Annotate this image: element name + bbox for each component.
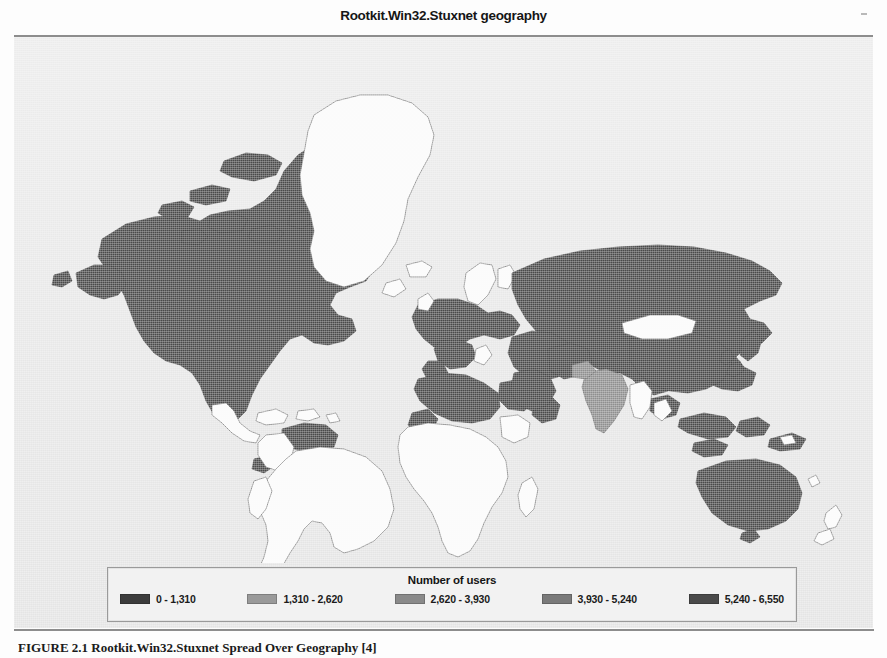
legend-title: Number of users bbox=[108, 574, 796, 586]
legend-swatch-icon bbox=[542, 594, 572, 604]
figure-caption-text: Rootkit.Win32.Stuxnet Spread Over Geogra… bbox=[91, 640, 376, 655]
map-legend: Number of users 0 - 1,310 1,310 - 2,620 … bbox=[107, 567, 797, 622]
world-choropleth-map: .hi { fill: #4a4a4a; stroke: #3a3a3a; st… bbox=[14, 43, 873, 563]
figure-bottom-rule bbox=[14, 629, 874, 631]
legend-item: 3,930 - 5,240 bbox=[542, 593, 637, 605]
figure-title: Rootkit.Win32.Stuxnet geography bbox=[0, 8, 887, 23]
legend-swatch-icon bbox=[689, 594, 719, 604]
legend-items: 0 - 1,310 1,310 - 2,620 2,620 - 3,930 3,… bbox=[108, 586, 796, 605]
figure-caption: FIGURE 2.1 Rootkit.Win32.Stuxnet Spread … bbox=[18, 640, 868, 656]
legend-item-label: 5,240 - 6,550 bbox=[725, 593, 784, 605]
legend-swatch-icon bbox=[120, 594, 150, 604]
map-panel: .hi { fill: #4a4a4a; stroke: #3a3a3a; st… bbox=[14, 35, 873, 628]
legend-item: 0 - 1,310 bbox=[120, 593, 196, 605]
figure-caption-label: FIGURE 2.1 bbox=[18, 640, 88, 655]
legend-swatch-icon bbox=[395, 594, 425, 604]
page-corner-mark bbox=[861, 13, 867, 15]
legend-item: 1,310 - 2,620 bbox=[247, 593, 342, 605]
legend-item-label: 1,310 - 2,620 bbox=[283, 593, 342, 605]
region-south-america bbox=[248, 423, 394, 563]
legend-item: 2,620 - 3,930 bbox=[395, 593, 490, 605]
region-iceland bbox=[406, 261, 432, 277]
legend-item: 5,240 - 6,550 bbox=[689, 593, 784, 605]
legend-swatch-icon bbox=[247, 594, 277, 604]
legend-item-label: 3,930 - 5,240 bbox=[578, 593, 637, 605]
legend-item-label: 2,620 - 3,930 bbox=[431, 593, 490, 605]
region-europe bbox=[412, 263, 520, 381]
region-asia bbox=[508, 245, 782, 457]
legend-item-label: 0 - 1,310 bbox=[156, 593, 196, 605]
